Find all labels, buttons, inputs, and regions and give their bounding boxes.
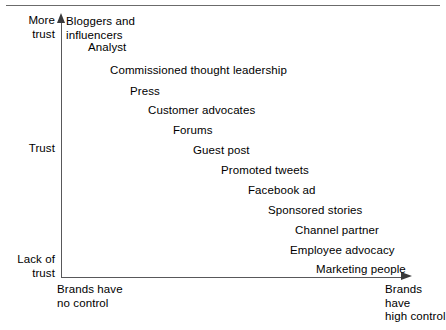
y-axis-line — [61, 22, 62, 278]
x-axis-label-high-control: Brands have high control — [385, 283, 446, 324]
y-axis-tick-label-more-trust: More trust — [3, 14, 55, 41]
data-point-label-guest-post: Guest post — [193, 144, 250, 158]
trust-vs-brand-control-chart: More trust Trust Lack of trust Bloggers … — [0, 0, 446, 330]
data-point-label-channel-partner: Channel partner — [295, 224, 379, 238]
data-point-label-customer-advocates: Customer advocates — [148, 104, 255, 118]
data-point-label-analyst: Analyst — [88, 41, 126, 55]
data-point-label-forums: Forums — [173, 124, 213, 138]
data-point-label-employee-advocacy: Employee advocacy — [290, 244, 395, 258]
x-axis-label-no-control: Brands have no control — [57, 283, 123, 310]
data-point-label-marketing-people: Marketing people — [316, 263, 406, 277]
data-point-label-commissioned-thought-leadership: Commissioned thought leadership — [110, 64, 287, 78]
data-point-label-press: Press — [130, 85, 160, 99]
y-axis-tick-label-lack-of-trust: Lack of trust — [3, 253, 55, 280]
y-axis-tick-label-trust: Trust — [3, 142, 55, 156]
y-axis-arrow-icon — [57, 13, 65, 23]
x-axis-line — [61, 277, 402, 278]
data-point-label-facebook-ad: Facebook ad — [248, 184, 316, 198]
top-divider-rule — [6, 5, 440, 6]
data-point-label-bloggers-and-influencers: Bloggers and influencers — [66, 15, 135, 42]
data-point-label-sponsored-stories: Sponsored stories — [268, 204, 362, 218]
data-point-label-promoted-tweets: Promoted tweets — [221, 164, 309, 178]
